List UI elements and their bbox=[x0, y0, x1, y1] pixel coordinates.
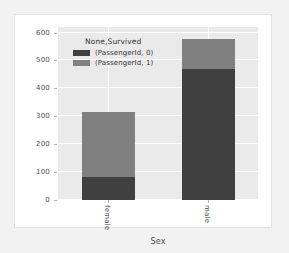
figure-card: 0100200300400500600 femalemale Sex None,… bbox=[14, 14, 272, 228]
x-tick-mark bbox=[208, 200, 209, 203]
y-tick-label: 200 bbox=[36, 140, 50, 148]
y-tick-mark bbox=[54, 172, 57, 173]
y-tick-label: 500 bbox=[36, 56, 50, 64]
legend-item-passengerid-0: (PassengerId, 0) bbox=[73, 49, 153, 57]
y-tick-mark bbox=[54, 60, 57, 61]
y-tick-label: 0 bbox=[45, 196, 50, 204]
x-tick-label: female bbox=[103, 205, 111, 230]
y-tick-mark bbox=[54, 88, 57, 89]
gridline bbox=[58, 32, 258, 33]
legend-title: None,Survived bbox=[73, 37, 153, 46]
y-tick-label: 100 bbox=[36, 168, 50, 176]
bar-segment[interactable] bbox=[182, 69, 235, 200]
y-tick-label: 300 bbox=[36, 112, 50, 120]
x-tick-label: male bbox=[203, 205, 211, 223]
legend-swatch-icon bbox=[73, 50, 90, 56]
legend-item-passengerid-1: (PassengerId, 1) bbox=[73, 59, 153, 67]
bar-male[interactable] bbox=[182, 39, 235, 200]
y-tick-mark bbox=[54, 116, 57, 117]
bar-segment[interactable] bbox=[82, 112, 135, 177]
bar-female[interactable] bbox=[82, 112, 135, 200]
bar-segment[interactable] bbox=[182, 39, 235, 69]
x-axis-label: Sex bbox=[58, 237, 258, 246]
legend-item-label: (PassengerId, 0) bbox=[95, 49, 153, 57]
y-tick-mark bbox=[54, 144, 57, 145]
y-tick-mark bbox=[54, 200, 57, 201]
x-tick-mark bbox=[108, 200, 109, 203]
legend-swatch-icon bbox=[73, 60, 90, 66]
y-tick-mark bbox=[54, 33, 57, 34]
chart-screenshot: 0100200300400500600 femalemale Sex None,… bbox=[0, 0, 289, 253]
y-tick-label: 600 bbox=[36, 29, 50, 37]
legend-item-label: (PassengerId, 1) bbox=[95, 59, 153, 67]
legend: None,Survived (PassengerId, 0) (Passenge… bbox=[73, 37, 153, 69]
bar-segment[interactable] bbox=[82, 177, 135, 200]
y-tick-label: 400 bbox=[36, 84, 50, 92]
